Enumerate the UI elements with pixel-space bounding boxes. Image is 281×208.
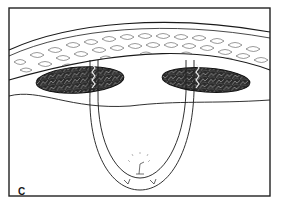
suture-knot (124, 152, 156, 184)
panel-label: C (18, 186, 25, 197)
muscle-left (35, 64, 125, 96)
anatomical-illustration: C (0, 0, 281, 208)
muscle-right (161, 65, 250, 95)
fascia-line (9, 94, 270, 106)
illustration-canvas (0, 0, 281, 208)
